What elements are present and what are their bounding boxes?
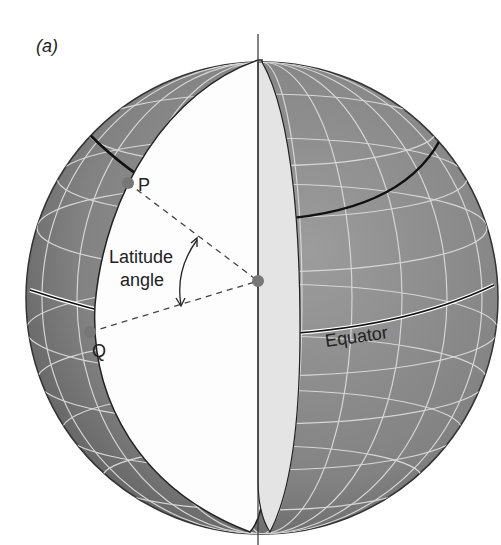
- label-q: Q: [92, 341, 106, 361]
- panel-label: (a): [36, 36, 58, 56]
- label-latitude: Latitude: [109, 247, 173, 267]
- point-p: [122, 177, 134, 189]
- globe-diagram: (a) P Q Latitude angle Equator: [0, 0, 501, 545]
- label-angle: angle: [120, 270, 164, 290]
- label-p: P: [138, 175, 150, 195]
- point-q: [84, 326, 96, 338]
- point-center: [252, 275, 264, 287]
